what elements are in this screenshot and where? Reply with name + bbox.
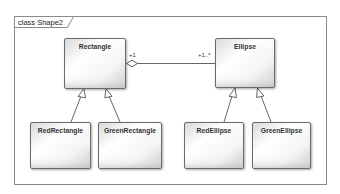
generalization-redrectangle-rectangle[interactable]: [71, 89, 86, 123]
generalization-arrow-icon: [229, 88, 237, 98]
class-greenrectangle[interactable]: GreenRectangle: [99, 123, 162, 169]
generalization-arrow-icon: [78, 89, 86, 98]
generalization-line: [261, 96, 271, 122]
source-multiplicity: +1: [129, 52, 137, 58]
aggregation-diamond-icon: [127, 60, 138, 67]
target-multiplicity: +1..*: [198, 52, 211, 58]
class-rectangle[interactable]: Rectangle: [65, 39, 126, 89]
class-name: RedRectangle: [38, 127, 84, 135]
class-name: GreenEllipse: [261, 127, 303, 135]
generalization-arrow-icon: [257, 88, 264, 98]
class-greenellipse[interactable]: GreenEllipse: [253, 123, 311, 169]
generalization-greenrectangle-rectangle[interactable]: [105, 89, 120, 123]
generalization-greenellipse-ellipse[interactable]: [257, 88, 272, 122]
generalization-line: [71, 96, 81, 122]
generalization-line: [224, 96, 232, 122]
class-name: GreenRectangle: [104, 127, 156, 135]
class-redrectangle[interactable]: RedRectangle: [31, 123, 91, 169]
class-name: Ellipse: [234, 43, 256, 51]
generalization-line: [109, 96, 120, 122]
generalization-redellipse-ellipse[interactable]: [224, 88, 237, 122]
class-name: Rectangle: [79, 43, 112, 51]
class-diagram: class Shape2 +1 +1..* Rect: [0, 0, 340, 194]
class-ellipse[interactable]: Ellipse: [216, 39, 275, 88]
class-name: RedEllipse: [197, 127, 232, 135]
generalization-arrow-icon: [105, 89, 112, 98]
frame-label: class Shape2: [18, 18, 63, 27]
class-redellipse[interactable]: RedEllipse: [185, 123, 244, 169]
